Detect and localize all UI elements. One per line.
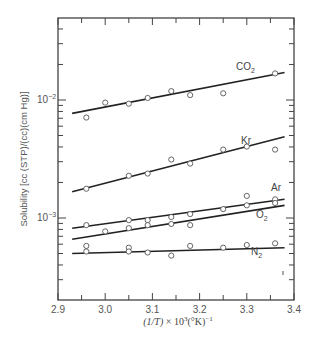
y-axis-title: Solubility [cc (STP)/(cc)(cm Hg)] [18, 91, 29, 226]
data-point [103, 229, 108, 234]
data-point [169, 221, 174, 226]
data-point [126, 226, 131, 231]
data-point [84, 243, 89, 248]
data-point [84, 249, 89, 254]
data-point [221, 206, 226, 211]
data-point [145, 250, 150, 255]
y-tick-label-1e-2: 10−2 [37, 93, 56, 105]
data-point [244, 203, 249, 208]
x-tick-label: 3.4 [287, 304, 301, 315]
data-point [169, 157, 174, 162]
data-point [221, 245, 226, 250]
data-point [84, 115, 89, 120]
series-O₂ [72, 193, 284, 239]
x-tick-label: 3.3 [240, 304, 254, 315]
x-axis-title: (1/T) × 103(°K)−1 [143, 315, 213, 328]
data-point [188, 93, 193, 98]
series-Kr [72, 137, 284, 192]
x-tick-labels: 2.93.03.13.23.33.4 [51, 304, 301, 315]
series-CO₂ [72, 71, 284, 120]
data-point [145, 223, 150, 228]
x-tick-label: 2.9 [51, 304, 65, 315]
data-point [188, 223, 193, 228]
data-point [145, 217, 150, 222]
label-o2: O2 [256, 209, 268, 222]
fit-line [72, 199, 284, 228]
data-point [126, 173, 131, 178]
series-Ar [72, 197, 284, 228]
data-point [169, 88, 174, 93]
x-tick-label: 3.1 [145, 304, 159, 315]
label-ar: Ar [271, 182, 282, 193]
data-point [84, 223, 89, 228]
data-point [273, 147, 278, 152]
data-point [221, 147, 226, 152]
data-point [273, 241, 278, 246]
data-point [188, 161, 193, 166]
data-point [273, 200, 278, 205]
data-point [169, 253, 174, 258]
solubility-chart: 10−2 10−3 Solubility [cc (STP)/(cc)(cm H… [0, 0, 316, 343]
data-point [126, 249, 131, 254]
fit-line [72, 137, 284, 192]
label-co2: CO2 [236, 61, 255, 74]
x-tick-label: 3.2 [193, 304, 207, 315]
x-tick-label: 3.0 [98, 304, 112, 315]
data-series [72, 71, 284, 258]
data-point [188, 211, 193, 216]
data-point [188, 243, 193, 248]
data-point [145, 171, 150, 176]
label-kr: Kr [241, 135, 252, 146]
data-point [244, 242, 249, 247]
data-point [126, 217, 131, 222]
data-point [84, 186, 89, 191]
y-tick-label-1e-3: 10−3 [37, 211, 56, 223]
data-point [273, 71, 278, 76]
data-point [126, 101, 131, 106]
data-point [145, 95, 150, 100]
data-point [169, 214, 174, 219]
data-point [244, 193, 249, 198]
data-point [221, 91, 226, 96]
data-point [103, 100, 108, 105]
fit-line [72, 73, 284, 114]
